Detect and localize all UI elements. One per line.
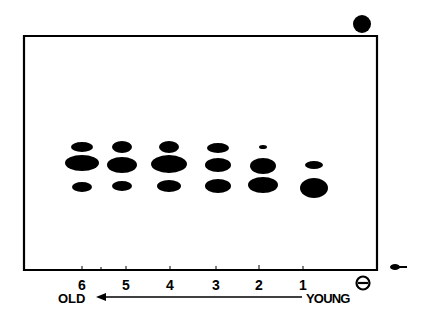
gel-band-lane-4 xyxy=(151,155,187,173)
gel-band-lane-4 xyxy=(157,180,181,192)
lane-label-3: 3 xyxy=(212,277,220,293)
lane-label-5: 5 xyxy=(122,277,130,293)
gel-band-lane-5 xyxy=(112,181,132,191)
old-label: OLD xyxy=(58,291,85,306)
gel-frame xyxy=(24,36,377,270)
anode-dot-icon xyxy=(353,15,371,33)
gel-band-lane-3 xyxy=(205,179,231,193)
gel-band-lane-2 xyxy=(248,177,278,193)
band-group xyxy=(65,141,328,198)
sample-origin-arrow-icon xyxy=(390,264,407,270)
gel-band-lane-1 xyxy=(305,161,323,169)
gel-band-lane-5 xyxy=(112,141,132,153)
lane-label-4: 4 xyxy=(166,277,174,293)
gel-band-lane-2 xyxy=(259,145,267,149)
young-label: YOUNG xyxy=(306,291,350,306)
gel-band-lane-3 xyxy=(205,158,231,172)
gel-band-lane-6 xyxy=(71,142,93,152)
gel-band-lane-1 xyxy=(300,178,328,198)
gel-band-lane-4 xyxy=(159,141,179,153)
cathode-minus-icon xyxy=(357,277,370,290)
gel-band-lane-6 xyxy=(72,182,92,192)
gel-band-lane-2 xyxy=(250,158,276,174)
gel-diagram: 6 5 4 3 2 1 OLD YOUNG xyxy=(0,0,425,322)
gel-band-lane-3 xyxy=(207,143,229,153)
gel-band-lane-6 xyxy=(65,155,99,171)
gel-band-lane-5 xyxy=(107,157,137,173)
left-arrowhead-icon xyxy=(96,293,106,301)
lane-label-2: 2 xyxy=(255,277,263,293)
